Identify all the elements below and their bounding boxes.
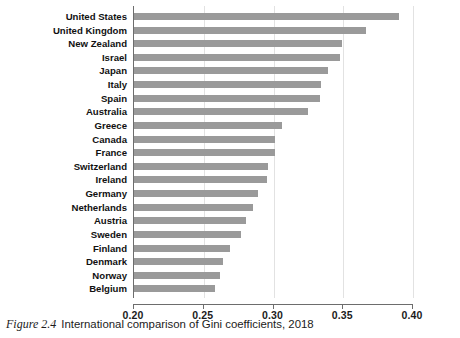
category-label: Australia [0, 105, 133, 118]
chart-row: Greece [0, 119, 460, 132]
chart-row: Switzerland [0, 160, 460, 173]
chart-row: Japan [0, 64, 460, 77]
bar [134, 122, 282, 129]
bar [134, 40, 342, 47]
chart-row: United States [0, 10, 460, 23]
x-tick-label: 0.35 [332, 309, 353, 321]
chart-row: Spain [0, 92, 460, 105]
chart-row: Netherlands [0, 201, 460, 214]
category-label: Netherlands [0, 201, 133, 214]
figure-caption: Figure 2.4International comparison of Gi… [6, 317, 314, 332]
chart-row: Italy [0, 78, 460, 91]
chart-plot: 0.200.250.300.350.40 United StatesUnited… [0, 6, 460, 306]
chart-row: France [0, 146, 460, 159]
chart-row: New Zealand [0, 37, 460, 50]
category-label: Norway [0, 269, 133, 282]
chart-row: Canada [0, 133, 460, 146]
bar [134, 163, 268, 170]
bar [134, 54, 340, 61]
chart-row: Austria [0, 214, 460, 227]
bar [134, 272, 220, 279]
category-label: Denmark [0, 255, 133, 268]
chart-row: Denmark [0, 255, 460, 268]
chart-row: Australia [0, 105, 460, 118]
bar [134, 217, 246, 224]
chart-row: Finland [0, 242, 460, 255]
bar [134, 245, 230, 252]
category-label: Japan [0, 64, 133, 77]
bar [134, 285, 215, 292]
category-label: Austria [0, 214, 133, 227]
category-label: United States [0, 10, 133, 23]
category-label: Finland [0, 242, 133, 255]
category-label: Israel [0, 51, 133, 64]
x-tick-label: 0.40 [402, 309, 423, 321]
caption-text: International comparison of Gini coeffic… [61, 318, 313, 330]
chart-row: Norway [0, 269, 460, 282]
category-label: Italy [0, 78, 133, 91]
bar [134, 67, 328, 74]
bar [134, 136, 275, 143]
category-label: Switzerland [0, 160, 133, 173]
category-label: New Zealand [0, 37, 133, 50]
figure-container: 0.200.250.300.350.40 United StatesUnited… [0, 0, 460, 338]
chart-row: Ireland [0, 173, 460, 186]
chart-row: Israel [0, 51, 460, 64]
category-label: Belgium [0, 282, 133, 295]
figure-number: Figure 2.4 [6, 317, 56, 331]
chart-row: United Kingdom [0, 24, 460, 37]
bar [134, 95, 320, 102]
category-label: Ireland [0, 173, 133, 186]
chart-row: Belgium [0, 282, 460, 295]
bar [134, 149, 275, 156]
category-label: Sweden [0, 228, 133, 241]
chart-row: Sweden [0, 228, 460, 241]
bar [134, 258, 223, 265]
bar [134, 190, 258, 197]
category-label: Spain [0, 92, 133, 105]
category-label: Greece [0, 119, 133, 132]
category-label: Germany [0, 187, 133, 200]
bar [134, 176, 267, 183]
bar [134, 204, 253, 211]
bar [134, 108, 308, 115]
bar [134, 81, 321, 88]
bar [134, 13, 399, 20]
bar [134, 231, 241, 238]
chart-row: Germany [0, 187, 460, 200]
bar [134, 27, 366, 34]
category-label: Canada [0, 133, 133, 146]
category-label: France [0, 146, 133, 159]
category-label: United Kingdom [0, 24, 133, 37]
